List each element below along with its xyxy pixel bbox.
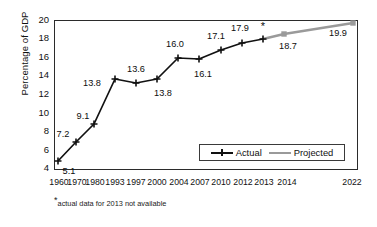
chart-footnote: *actual data for 2013 not available <box>54 199 166 208</box>
x-tick-label-1993: 1993 <box>105 177 124 187</box>
x-tick-label-2012: 2012 <box>233 177 252 187</box>
x-tick-label-1970: 1970 <box>67 177 86 187</box>
legend-item-projected[interactable]: Projected <box>269 148 334 158</box>
legend-label-projected: Projected <box>294 148 334 158</box>
x-tick-label-2007: 2007 <box>190 177 209 187</box>
projected-line-icon <box>269 148 291 157</box>
actual-series-line <box>58 39 263 161</box>
actual-line-icon <box>211 148 233 157</box>
footnote-text: actual data for 2013 not available <box>58 199 167 208</box>
y-tick-label: 8 <box>3 126 49 136</box>
data-label-1970: 7.2 <box>57 129 70 139</box>
chart-legend[interactable]: Actual Projected <box>199 144 345 161</box>
data-label-1980: 9.1 <box>77 111 90 121</box>
data-label-2007: 16.1 <box>194 69 212 79</box>
y-tick-label: 18 <box>3 33 49 43</box>
data-label-1960: 5.1 <box>63 166 76 176</box>
x-tick-label-2013: 2013 <box>254 177 273 187</box>
data-label-1997: 13.6 <box>127 64 145 74</box>
data-label-2004: 16.0 <box>166 39 184 49</box>
x-tick-label-2014: 2014 <box>277 177 296 187</box>
y-tick-label: 20 <box>3 15 49 25</box>
chart-container: Percentage of GDP 20 18 16 14 12 10 8 6 … <box>0 0 377 227</box>
data-label-1993: 13.8 <box>83 78 101 88</box>
data-label-2000: 13.8 <box>154 88 172 98</box>
x-tick-label-2010: 2010 <box>211 177 230 187</box>
x-tick-label-2022: 2022 <box>342 177 361 187</box>
y-tick-label: 6 <box>3 145 49 155</box>
data-label-2022: 19.9 <box>329 28 347 38</box>
y-tick-label: 14 <box>3 70 49 80</box>
y-tick-label: 4 <box>3 163 49 173</box>
data-label-2010: 17.1 <box>207 31 225 41</box>
x-tick-label-2000: 2000 <box>147 177 166 187</box>
legend-item-actual[interactable]: Actual <box>211 148 262 158</box>
data-label-2013-asterisk: * <box>261 21 265 31</box>
data-label-2012: 17.9 <box>231 23 249 33</box>
y-tick-label: 12 <box>3 89 49 99</box>
x-tick-label-1997: 1997 <box>126 177 145 187</box>
x-tick-label-2004: 2004 <box>169 177 188 187</box>
data-label-2014: 18.7 <box>279 41 297 51</box>
y-tick-label: 10 <box>3 108 49 118</box>
y-axis-tick-labels: 20 18 16 14 12 10 8 6 4 <box>0 0 54 227</box>
legend-label-actual: Actual <box>236 148 262 158</box>
y-tick-label: 16 <box>3 52 49 62</box>
x-tick-label-1980: 1980 <box>85 177 104 187</box>
x-tick-label-1960: 1960 <box>49 177 68 187</box>
